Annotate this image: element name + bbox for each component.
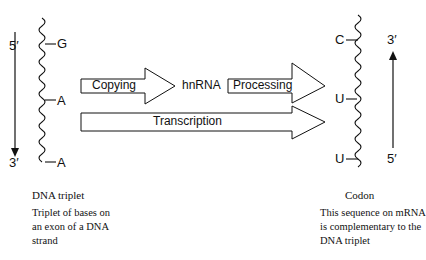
dna-strand-wave [39, 18, 45, 162]
dna-description-line-2: an exon of a DNA [32, 220, 109, 234]
mrna-top-end-label: 3′ [387, 32, 397, 47]
dna-base-3: A [57, 155, 66, 170]
mrna-base-3: U [335, 151, 344, 166]
header-fragment: nana [2, 0, 24, 2]
mrna-description-line-2: is complementary to the [320, 220, 421, 234]
mrna-description-line-3: DNA triplet [320, 234, 370, 248]
dna-description-line-3: strand [32, 234, 58, 248]
dna-base-2: A [57, 93, 66, 108]
copying-label: Copying [92, 78, 136, 92]
mrna-description-line-1: This sequence on mRNA [320, 206, 426, 220]
transcription-label: Transcription [153, 114, 222, 128]
dna-top-end-label: 5′ [9, 38, 19, 53]
processing-label: Processing [233, 78, 292, 92]
dna-base-1: G [57, 36, 67, 51]
codon-title: Codon [345, 189, 374, 201]
dna-triplet-title: DNA triplet [32, 189, 84, 201]
mrna-base-1: C [335, 32, 344, 47]
mrna-bottom-end-label: 5′ [387, 151, 397, 166]
hnrna-label: hnRNA [182, 78, 221, 92]
mrna-strand-wave [355, 15, 361, 167]
dna-description-line-1: Triplet of bases on [32, 206, 110, 220]
dna-bottom-end-label: 3′ [9, 155, 19, 170]
mrna-base-2: U [335, 91, 344, 106]
